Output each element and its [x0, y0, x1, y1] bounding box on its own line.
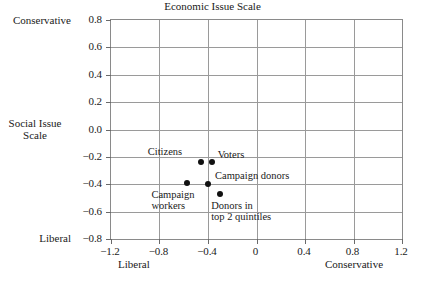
data-point-label: Campaign workers: [151, 189, 194, 212]
y-axis-tick: [106, 184, 111, 185]
x-axis-tick-label: 0: [234, 246, 278, 257]
y-axis-tick-label: −0.2: [66, 151, 102, 162]
x-axis-tick-label: −1.2: [88, 246, 132, 257]
x-axis-tick: [305, 239, 306, 244]
y-axis-tick: [106, 212, 111, 213]
y-axis-tick-label: 0.4: [66, 69, 102, 80]
scatter-plot-figure: Conservative Social IssueScale Liberal L…: [0, 0, 425, 294]
gridline-horizontal: [111, 102, 402, 103]
x-axis-tick-label: 0.4: [282, 246, 326, 257]
x-axis-tick-label: 1.2: [379, 246, 423, 257]
gridline-horizontal: [111, 184, 402, 185]
data-point-label: Donors in top 2 quintiles: [211, 200, 271, 223]
data-point: [205, 181, 211, 187]
y-axis-tick: [106, 75, 111, 76]
gridline-horizontal: [111, 47, 402, 48]
y-axis-tick: [106, 130, 111, 131]
y-axis-top-label: Conservative: [13, 14, 71, 26]
y-axis-tick-label: −0.4: [66, 178, 102, 189]
y-axis-tick-label: 0.6: [66, 41, 102, 52]
y-axis-title: Social IssueScale: [0, 117, 71, 141]
x-axis-right-label: Conservative: [325, 258, 383, 270]
x-axis-tick: [257, 239, 258, 244]
data-point: [217, 191, 223, 197]
x-axis-tick-label: 0.8: [331, 246, 375, 257]
y-axis-title-line1: Social Issue: [9, 117, 62, 129]
data-point: [198, 159, 204, 165]
gridline-horizontal: [111, 130, 402, 131]
data-point-label: Campaign donors: [215, 170, 289, 182]
x-axis-tick-label: −0.4: [185, 246, 229, 257]
y-axis-tick: [106, 157, 111, 158]
y-axis-tick: [106, 102, 111, 103]
y-axis-tick-label: 0.2: [66, 96, 102, 107]
x-axis-left-label: Liberal: [118, 258, 150, 270]
plot-area: CitizensVotersCampaign workersCampaign d…: [110, 19, 403, 240]
data-point-label: Citizens: [148, 146, 182, 158]
y-axis-tick: [106, 47, 111, 48]
x-axis-tick: [111, 239, 112, 244]
y-axis-tick-label: 0.8: [66, 14, 102, 25]
y-axis-tick-label: −0.8: [66, 233, 102, 244]
y-axis-title-line2: Scale: [23, 129, 47, 141]
x-axis-tick: [159, 239, 160, 244]
x-axis-tick: [354, 239, 355, 244]
gridline-horizontal: [111, 75, 402, 76]
x-axis-tick: [208, 239, 209, 244]
data-point: [209, 159, 215, 165]
y-axis-tick: [106, 239, 111, 240]
y-axis-tick: [106, 20, 111, 21]
data-point-label: Voters: [218, 149, 245, 161]
y-axis-tick-label: −0.6: [66, 206, 102, 217]
x-axis-tick: [402, 239, 403, 244]
y-axis-tick-label: 0.0: [66, 124, 102, 135]
x-axis-title: Economic Issue Scale: [0, 0, 425, 12]
x-axis-tick-label: −0.8: [137, 246, 181, 257]
